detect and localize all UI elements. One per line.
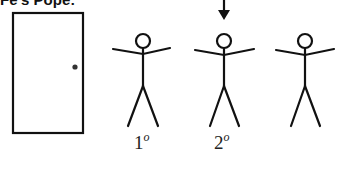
stick-figure-3 bbox=[276, 34, 334, 126]
stick-figure-2 bbox=[195, 34, 254, 126]
diagram-canvas bbox=[0, 0, 342, 173]
door-icon bbox=[13, 13, 83, 133]
stick-figure-1 bbox=[113, 34, 170, 126]
figure-1-label: 1o bbox=[134, 131, 150, 154]
arrow-down-icon bbox=[218, 0, 230, 20]
door-knob bbox=[72, 64, 77, 69]
figure-2-label: 2o bbox=[214, 131, 230, 154]
